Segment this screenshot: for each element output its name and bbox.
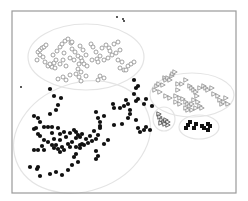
- data-point: [38, 134, 42, 138]
- data-point: [72, 155, 76, 159]
- data-point: [98, 74, 102, 78]
- data-point: [206, 128, 210, 132]
- data-point: [168, 96, 172, 100]
- data-point: [86, 141, 90, 145]
- data-point: [120, 60, 124, 64]
- data-point: [94, 50, 98, 54]
- data-point: [118, 66, 122, 70]
- data-point: [50, 125, 54, 129]
- data-point: [173, 70, 177, 74]
- data-point: [62, 130, 66, 134]
- data-point: [66, 168, 70, 172]
- data-point: [122, 104, 126, 108]
- data-point: [48, 62, 52, 66]
- data-point: [106, 56, 110, 60]
- data-point: [64, 78, 68, 82]
- data-point: [43, 60, 47, 64]
- data-point: [184, 78, 188, 82]
- data-point: [46, 125, 50, 129]
- data-point: [61, 58, 65, 62]
- data-point: [96, 60, 100, 64]
- data-point: [92, 129, 96, 133]
- data-point: [126, 102, 130, 106]
- data-point: [161, 83, 165, 87]
- data-point: [77, 62, 81, 66]
- data-point: [224, 96, 228, 100]
- data-point: [80, 142, 84, 146]
- data-point: [64, 64, 68, 68]
- data-point: [78, 44, 82, 48]
- data-point: [112, 106, 116, 110]
- data-point: [136, 126, 140, 130]
- data-point: [195, 94, 199, 98]
- data-point: [42, 148, 46, 152]
- data-point: [41, 55, 45, 59]
- outlier-point: [123, 20, 125, 22]
- data-point: [94, 157, 98, 161]
- data-point: [96, 116, 100, 120]
- data-point: [56, 103, 60, 107]
- plot-frame: [12, 11, 236, 193]
- data-point: [98, 124, 102, 128]
- data-point: [70, 140, 74, 144]
- data-point: [96, 133, 100, 137]
- data-point: [50, 131, 54, 135]
- data-point: [144, 97, 148, 101]
- data-point: [80, 132, 84, 136]
- cluster-ellipses: [0, 24, 234, 201]
- data-point: [54, 108, 58, 112]
- data-point: [132, 78, 136, 82]
- data-point: [124, 68, 128, 72]
- data-point: [138, 130, 142, 134]
- data-point: [116, 58, 120, 62]
- data-point: [28, 165, 32, 169]
- data-point: [118, 106, 122, 110]
- data-point: [150, 104, 154, 108]
- data-point: [48, 87, 52, 91]
- data-point: [42, 138, 46, 142]
- data-point: [91, 45, 95, 49]
- data-point: [46, 140, 50, 144]
- data-point: [55, 49, 59, 53]
- data-point: [102, 114, 106, 118]
- data-point: [51, 53, 55, 57]
- data-point: [94, 149, 98, 153]
- data-point: [168, 78, 172, 82]
- data-point: [128, 108, 132, 112]
- outlier-point: [116, 16, 118, 18]
- data-point: [84, 74, 88, 78]
- data-point: [96, 78, 100, 82]
- data-point: [70, 40, 74, 44]
- data-point: [148, 128, 152, 132]
- data-point: [102, 76, 106, 80]
- data-point: [66, 37, 70, 41]
- data-point: [194, 122, 198, 126]
- data-point: [56, 77, 60, 81]
- data-point: [68, 73, 72, 77]
- data-point: [70, 163, 74, 167]
- data-point: [116, 40, 120, 44]
- data-point: [56, 126, 60, 130]
- data-point: [54, 170, 58, 174]
- data-point: [111, 102, 115, 106]
- data-point: [108, 49, 112, 53]
- data-point: [85, 64, 89, 68]
- data-point: [158, 90, 162, 94]
- data-point: [74, 136, 78, 140]
- data-point: [98, 120, 102, 124]
- data-point: [76, 160, 80, 164]
- data-point: [44, 43, 48, 47]
- data-point: [58, 150, 62, 154]
- outlier-point: [20, 86, 22, 88]
- data-point: [208, 124, 212, 128]
- data-point: [54, 58, 58, 62]
- data-point: [88, 134, 92, 138]
- data-point: [58, 138, 62, 142]
- data-point: [90, 139, 94, 143]
- data-point: [79, 70, 83, 74]
- data-point: [112, 123, 116, 127]
- data-point: [192, 126, 196, 130]
- data-point: [134, 99, 138, 103]
- data-point: [62, 51, 66, 55]
- data-point: [120, 122, 124, 126]
